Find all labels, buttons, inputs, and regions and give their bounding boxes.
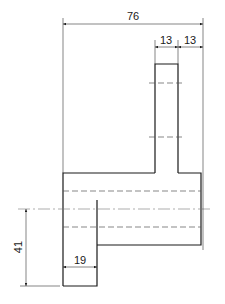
part-outline [63, 64, 201, 286]
dimension-left-block-height: 41 [12, 209, 26, 286]
dimension-post-offset: 13 [178, 34, 203, 47]
dimension-overall-width: 76 [63, 10, 203, 24]
dimension-label-13-offset: 13 [184, 34, 196, 46]
dimension-post-width: 13 [155, 34, 178, 47]
dimension-left-block-width: 19 [63, 254, 97, 267]
dimension-label-13-post: 13 [160, 34, 172, 46]
dimension-label-19: 19 [74, 254, 86, 266]
dimension-label-76: 76 [127, 10, 139, 22]
dimension-label-41: 41 [12, 241, 24, 253]
hidden-lines [63, 83, 201, 227]
extension-lines [20, 18, 203, 286]
technical-drawing: 76 13 13 19 41 [0, 0, 225, 304]
